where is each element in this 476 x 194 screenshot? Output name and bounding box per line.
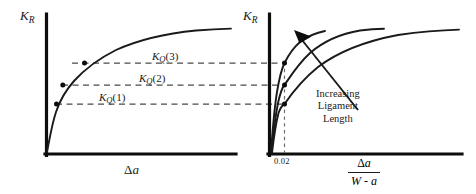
annotation-line-3: Length [316, 113, 360, 125]
kq3-label: KQ(3) [152, 51, 178, 64]
left-y-axis-title: KR [20, 9, 34, 26]
right-y-axis-title-main: K [243, 8, 252, 23]
kq2-label: KQ(2) [139, 73, 165, 86]
curve-longest-ligament [272, 30, 459, 153]
x-tick-label-002: 0.02 [274, 157, 290, 166]
right-x-axis-numerator: Δa [348, 156, 380, 172]
right-y-axis-title: KR [243, 9, 257, 26]
kq3-marker-dot [82, 61, 87, 66]
kq-level-lines [56, 63, 285, 104]
figure-canvas [0, 0, 476, 194]
right-x-axis-var: a [365, 156, 371, 170]
kq1-label-index: (1) [112, 91, 125, 103]
kq1-marker-dot [54, 102, 59, 107]
right-curves-group [271, 29, 459, 153]
left-y-axis-title-main: K [20, 8, 29, 23]
annotation-line-2: Ligament [316, 100, 360, 112]
increasing-ligament-annotation: Increasing Ligament Length [316, 88, 360, 125]
kq2-marker-dot [60, 83, 65, 88]
right-marker-dot-kq1 [282, 102, 287, 107]
kq1-label: KQ(1) [99, 92, 125, 105]
right-x-axis-title: Δa W - a [348, 156, 380, 189]
right-marker-dot-kq2 [282, 83, 287, 88]
left-r-curve-group [47, 29, 231, 152]
kq3-label-index: (3) [165, 50, 178, 62]
left-x-axis-var: a [132, 162, 139, 177]
right-x-axis-delta: Δ [357, 156, 365, 170]
arrow-head-icon [294, 30, 312, 44]
left-y-axis-title-sub: R [29, 15, 35, 25]
right-y-axis-title-sub: R [252, 15, 258, 25]
figure-container: KR Δa KQ(1) KQ(2) KQ(3) KR 0.02 Δa W - a… [0, 0, 476, 194]
left-x-axis-title: Δa [124, 163, 139, 177]
annotation-line-1: Increasing [316, 88, 360, 100]
left-r-curve [47, 29, 231, 152]
kq2-label-index: (2) [152, 72, 165, 84]
right-marker-dot-kq3 [282, 61, 287, 66]
right-x-axis-denominator: W - a [348, 172, 380, 189]
